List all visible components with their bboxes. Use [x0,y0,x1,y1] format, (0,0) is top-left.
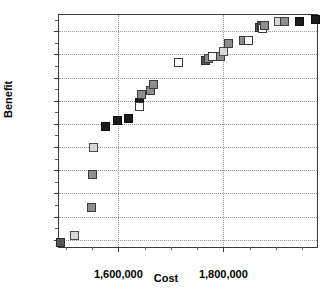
data-point [149,80,158,89]
y-tick [54,193,58,194]
data-point [113,116,122,125]
y-tick [54,217,58,218]
data-point [137,90,146,99]
y-tick [54,31,58,32]
data-point [70,231,79,240]
y-tick-minor [55,205,58,206]
data-point [87,203,96,212]
y-tick [54,170,58,171]
x-tick-minor [250,247,251,250]
y-axis-title: Benefit [2,81,14,118]
data-point [260,21,269,30]
y-tick [54,54,58,55]
y-tick [54,147,58,148]
x-tick-minor [171,247,172,250]
gridline-y [59,217,317,218]
x-tick-minor [145,247,146,250]
data-point [311,15,320,24]
scatter-chart: Benefit 310315320325330335340345350355 1… [0,0,332,297]
data-point [295,17,304,26]
y-tick-minor [55,182,58,183]
gridline-y [59,78,317,79]
gridline-x [118,15,119,247]
y-tick [54,78,58,79]
x-tick [118,247,119,252]
data-point [124,114,133,123]
gridline-y [59,101,317,102]
data-point [135,102,144,111]
gridline-y [59,193,317,194]
data-point [224,39,233,48]
x-axis-title: Cost [0,272,332,284]
gridline-y [59,54,317,55]
data-point [101,122,110,131]
x-tick-minor [276,247,277,250]
data-point [219,47,228,56]
gridline-y [59,170,317,171]
gridline-y [59,240,317,241]
data-point [89,143,98,152]
data-point [88,170,97,179]
y-tick-minor [55,135,58,136]
y-tick-minor [55,66,58,67]
data-point [56,238,65,247]
gridline-y [59,124,317,125]
y-tick [54,101,58,102]
data-point [174,58,183,67]
x-tick-minor [92,247,93,250]
plot-area: 310315320325330335340345350355 1,600,000… [58,14,318,248]
x-tick [223,247,224,252]
y-tick-minor [55,20,58,21]
x-tick-minor [302,247,303,250]
y-tick-minor [55,112,58,113]
y-tick-minor [55,159,58,160]
gridline-y [59,31,317,32]
y-tick-minor [55,228,58,229]
y-tick-minor [55,43,58,44]
x-tick-minor [66,247,67,250]
x-tick-minor [197,247,198,250]
y-tick [54,124,58,125]
y-tick-minor [55,89,58,90]
data-point [280,17,289,26]
data-point [244,36,253,45]
